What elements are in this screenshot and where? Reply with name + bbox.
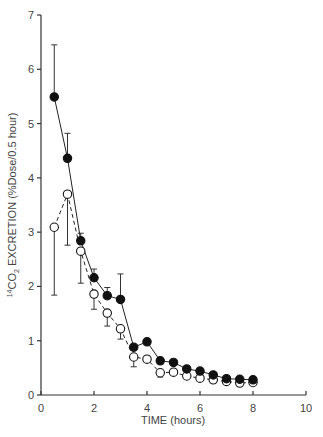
y-axis-label: 14CO2 EXCRETION (%Dose/0.5 hour) (6, 113, 20, 298)
filled-circle-marker (209, 371, 217, 379)
axes: 024681001234567 (28, 9, 312, 414)
data-markers (50, 93, 257, 387)
filled-circle-marker (236, 375, 244, 383)
dashed-series-line (54, 194, 253, 383)
x-tick-label: 8 (250, 402, 256, 414)
open-circle-marker (63, 190, 71, 198)
open-circle-marker (169, 368, 177, 376)
y-label-superscript: 14 (6, 289, 13, 297)
filled-circle-marker (63, 154, 71, 162)
x-tick-label: 2 (91, 402, 97, 414)
y-tick-label: 3 (28, 226, 34, 238)
filled-circle-marker (169, 358, 177, 366)
filled-circle-marker (90, 274, 98, 282)
y-tick-label: 5 (28, 118, 34, 130)
y-label-rest: EXCRETION (%Dose/0.5 hour) (6, 113, 18, 270)
filled-circle-marker (222, 375, 230, 383)
filled-circle-marker (196, 367, 204, 375)
y-tick-label: 1 (28, 335, 34, 347)
y-tick-label: 0 (28, 389, 34, 401)
x-tick-label: 0 (38, 402, 44, 414)
error-bars (51, 45, 163, 377)
x-tick-label: 6 (197, 402, 203, 414)
y-tick-label: 6 (28, 63, 34, 75)
open-circle-marker (103, 309, 111, 317)
open-circle-marker (143, 355, 151, 363)
filled-circle-marker (183, 365, 191, 373)
open-circle-marker (130, 353, 138, 361)
x-tick-label: 4 (144, 402, 150, 414)
filled-circle-marker (249, 376, 257, 384)
filled-circle-marker (50, 93, 58, 101)
y-tick-label: 2 (28, 280, 34, 292)
open-circle-marker (156, 369, 164, 377)
x-tick-label: 10 (300, 402, 312, 414)
y-label-base: CO (6, 273, 18, 290)
y-tick-label: 7 (28, 9, 34, 21)
chart: 024681001234567 TIME (hours) 14CO2 EXCRE… (0, 0, 323, 437)
open-circle-marker (90, 290, 98, 298)
filled-circle-marker (130, 343, 138, 351)
filled-circle-marker (77, 237, 85, 245)
filled-circle-marker (143, 338, 151, 346)
y-tick-label: 4 (28, 172, 34, 184)
filled-circle-marker (116, 295, 124, 303)
x-axis-label: TIME (hours) (141, 414, 205, 426)
open-circle-marker (77, 247, 85, 255)
filled-circle-marker (103, 291, 111, 299)
filled-circle-marker (156, 357, 164, 365)
open-circle-marker (50, 223, 58, 231)
open-circle-marker (116, 325, 124, 333)
